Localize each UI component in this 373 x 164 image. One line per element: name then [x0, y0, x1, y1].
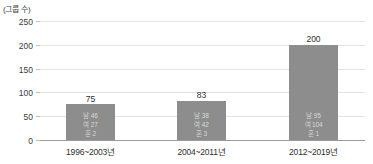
x-axis-line	[40, 140, 365, 141]
bar-1996-2003-breakdown: 남 46 여 27 혼 2	[66, 112, 115, 138]
bar-1996-2003-male: 남 46	[83, 112, 97, 120]
bar-2012-2019-mixed: 혼 1	[308, 130, 319, 138]
bar-2004-2011-male: 남 38	[194, 112, 208, 120]
y-tick-label-250: 250	[3, 17, 33, 27]
x-axis-label-1996-2003: 1996~2003년	[51, 145, 130, 157]
y-tick-label-100: 100	[3, 88, 33, 98]
bar-2004-2011-mixed: 혼 3	[196, 130, 207, 138]
y-tick-mark-100	[36, 92, 40, 93]
bar-2012-2019-male: 남 95	[306, 112, 320, 120]
bar-2012-2019: 남 95 여 104 혼 1	[289, 45, 338, 140]
bar-1996-2003-female: 여 27	[83, 121, 97, 129]
y-tick-mark-50	[36, 116, 40, 117]
x-axis-label-2004-2011: 2004~2011년	[162, 145, 241, 157]
y-tick-mark-250	[36, 21, 40, 22]
bar-2012-2019-breakdown: 남 95 여 104 혼 1	[289, 112, 338, 138]
y-tick-label-200: 200	[3, 41, 33, 51]
bar-value-1996-2003: 75	[66, 94, 115, 104]
bar-chart: (그룹 수) 남 46 여 27 혼 2 남 38 여 42 혼 3 남	[0, 0, 373, 164]
gridline-250	[40, 21, 365, 22]
y-tick-label-150: 150	[3, 65, 33, 75]
bar-value-2004-2011: 83	[177, 90, 226, 100]
bar-2012-2019-female: 여 104	[305, 121, 323, 129]
y-tick-mark-200	[36, 45, 40, 46]
bar-2004-2011-female: 여 42	[194, 121, 208, 129]
bar-2004-2011: 남 38 여 42 혼 3	[177, 101, 226, 141]
y-tick-label-50: 50	[3, 112, 33, 122]
x-axis-label-2012-2019: 2012~2019년	[274, 145, 353, 157]
y-tick-mark-150	[36, 69, 40, 70]
y-tick-mark-0	[36, 140, 40, 141]
bar-2004-2011-breakdown: 남 38 여 42 혼 3	[177, 112, 226, 138]
y-axis-unit-caption: (그룹 수)	[3, 3, 30, 14]
bar-value-2012-2019: 200	[289, 34, 338, 44]
bar-1996-2003: 남 46 여 27 혼 2	[66, 104, 115, 140]
bar-1996-2003-mixed: 혼 2	[85, 130, 96, 138]
y-tick-label-0: 0	[3, 136, 33, 146]
